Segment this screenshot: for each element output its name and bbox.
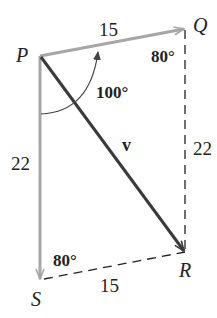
magnitude-label-pq: 15 [99,19,118,40]
angle-label-s: 80° [53,251,77,270]
angle-label-p: 100° [96,83,128,102]
angle-arc-p [41,52,98,114]
length-label-qr: 22 [193,138,212,159]
length-label-sr: 15 [100,275,119,296]
point-label-r: R [178,259,191,281]
vector-v-label: v [122,135,131,155]
angle-label-q: 80° [151,47,175,66]
point-label-p: P [15,44,28,66]
point-label-q: Q [193,14,208,36]
magnitude-label-ps: 22 [11,153,30,174]
vector-parallelogram-diagram: P Q R S 15 22 22 15 v 100° 80° 80° [0,0,217,318]
point-label-s: S [31,288,41,310]
